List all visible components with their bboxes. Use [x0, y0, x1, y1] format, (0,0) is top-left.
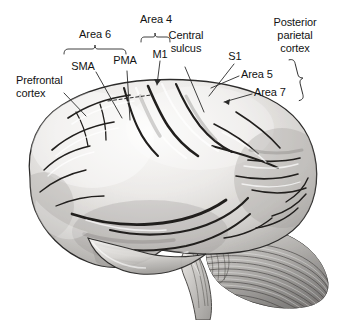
- label-area-5: Area 5: [241, 68, 293, 81]
- label-central-sulcus-line1: Central: [158, 29, 214, 42]
- label-sma: SMA: [62, 60, 104, 73]
- label-area-7: Area 7: [254, 86, 306, 99]
- label-area-6: Area 6: [64, 28, 126, 41]
- label-s1: S1: [222, 50, 248, 63]
- label-prefrontal-cortex-line1: Prefrontal: [16, 74, 78, 87]
- label-posterior-parietal-line2: parietal: [264, 29, 326, 42]
- label-central-sulcus-line2: sulcus: [158, 42, 214, 55]
- brain-anatomy-figure: Area 6 Area 4 SMA PMA M1 Central sulcus …: [0, 0, 355, 320]
- label-prefrontal-cortex-line2: cortex: [16, 87, 78, 100]
- label-posterior-parietal-line3: cortex: [264, 42, 326, 55]
- label-area-4: Area 4: [131, 13, 181, 26]
- label-pma: PMA: [103, 54, 147, 67]
- label-posterior-parietal-line1: Posterior: [264, 16, 326, 29]
